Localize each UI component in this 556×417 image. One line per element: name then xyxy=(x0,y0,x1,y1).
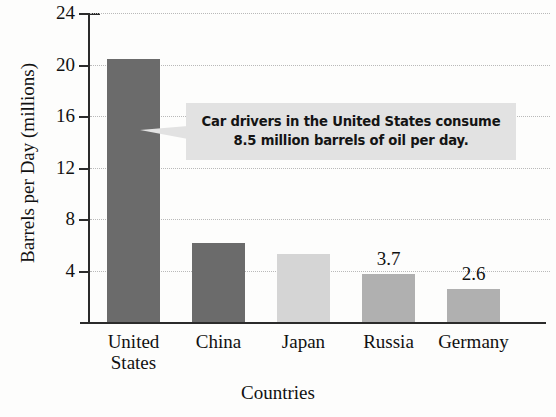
gridline xyxy=(90,13,550,14)
y-tick-label: 24 xyxy=(56,2,75,24)
category-label-germany: Germany xyxy=(431,331,516,352)
category-label-line: States xyxy=(91,352,176,373)
tick-mark xyxy=(79,168,90,170)
category-label-line: Russia xyxy=(346,331,431,352)
category-label-line: China xyxy=(176,331,261,352)
category-label-japan: Japan xyxy=(261,331,346,352)
y-tick-label: 12 xyxy=(56,157,75,179)
bar-chart: Barrels per Day (millions) 4812162024 3.… xyxy=(0,0,556,417)
bar-russia: 3.7 xyxy=(362,274,415,322)
tick-mark xyxy=(79,116,90,118)
callout-line-1: Car drivers in the United States consume xyxy=(196,112,506,131)
callout-line-2: 8.5 million barrels of oil per day. xyxy=(196,131,506,150)
bar-japan xyxy=(277,254,330,322)
x-axis-title: Countries xyxy=(0,382,556,404)
category-label-russia: Russia xyxy=(346,331,431,352)
x-axis-line xyxy=(80,322,546,324)
y-tick-label: 8 xyxy=(66,208,76,230)
y-tick-label: 16 xyxy=(56,105,75,127)
tick-mark xyxy=(79,219,90,221)
plot-area: 4812162024 3.72.6 UnitedStatesChinaJapan… xyxy=(88,13,550,322)
category-label-line: Japan xyxy=(261,331,346,352)
bar-united-states xyxy=(107,59,160,322)
category-label-line: United xyxy=(91,331,176,352)
category-label-line: Germany xyxy=(431,331,516,352)
y-tick-label: 4 xyxy=(66,260,76,282)
callout-tail-icon xyxy=(140,126,188,139)
bar-china xyxy=(192,243,245,322)
tick-mark xyxy=(79,13,90,15)
category-label-china: China xyxy=(176,331,261,352)
category-label-united-states: UnitedStates xyxy=(91,331,176,373)
y-tick-label: 20 xyxy=(56,54,75,76)
bar-germany: 2.6 xyxy=(447,289,500,322)
callout-box: Car drivers in the United States consume… xyxy=(186,103,516,160)
y-axis-title: Barrels per Day (millions) xyxy=(17,13,39,313)
tick-mark xyxy=(79,271,90,273)
tick-mark xyxy=(79,65,90,67)
bar-value-label: 3.7 xyxy=(362,248,415,270)
bar-value-label: 2.6 xyxy=(447,263,500,285)
